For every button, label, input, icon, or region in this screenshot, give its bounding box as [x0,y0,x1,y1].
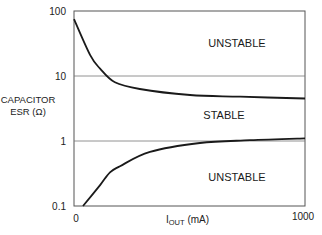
y-axis-label-line2: ESR (Ω) [10,106,46,117]
x-axis-label: IOUT (mA) [166,214,209,227]
region-label-stable: STABLE [203,109,244,121]
x-tick-0: 0 [73,213,79,224]
lower-boundary-curve [83,138,305,206]
y-tick-0.1: 0.1 [52,201,66,212]
region-label-unstable-upper: UNSTABLE [208,37,265,49]
chart: 100 10 1 0.1 0 1000 CAPACITOR ESR (Ω) IO… [0,0,322,235]
y-tick-1: 1 [60,136,66,147]
upper-boundary-curve [74,19,305,98]
y-tick-100: 100 [49,6,66,17]
x-tick-1000: 1000 [292,211,315,222]
region-label-unstable-lower: UNSTABLE [208,171,265,183]
plot-frame [74,11,305,206]
y-axis-label-line1: CAPACITOR [1,94,56,105]
y-tick-10: 10 [55,71,67,82]
